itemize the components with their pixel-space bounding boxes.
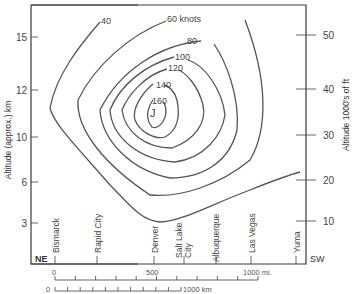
contour-label-80: 80 [187,36,197,46]
scale-miles-500: 500 [146,268,159,277]
left-tick-label-15: 15 [16,32,28,43]
right-tick-label-10: 10 [323,216,335,227]
left-axis: 15 12 10 6 3 Altitude (approx.) km [3,32,38,229]
contour-label-140: 140 [156,80,171,90]
left-axis-label: Altitude (approx.) km [3,101,13,179]
city-label-bismarck: Bismarck [51,217,61,253]
left-tick-label-6: 6 [21,177,27,188]
left-tick-label-12: 12 [16,85,28,96]
contour-label-120: 120 [168,63,183,73]
right-tick-label-50: 50 [323,30,335,41]
right-axis-label: Altitude 1000's of ft [341,78,351,151]
city-label-yuma: Yuma [292,231,302,253]
right-axis: 50 40 30 20 10 Altitude 1000's of ft [296,30,351,227]
city-label-albuquerque: Albuquerque [211,214,221,262]
jet-stream-cross-section-render: 15 12 10 6 3 Altitude (approx.) km 50 40… [0,0,359,294]
scale-km-1000: 1000 km [183,285,212,294]
right-tick-label-40: 40 [323,84,335,95]
scale-bars: 0 500 1000 mi. 0 1000 km [46,268,272,294]
scale-km-0: 0 [46,285,50,294]
scale-miles-0: 0 [52,268,56,277]
contours: 40 60 knots 80 100 120 140 160 J [50,14,300,222]
jet-core-symbol: J [150,107,156,119]
city-markers: Bismarck Rapid City Denver Salt Lake Cit… [35,213,325,264]
scale-miles-1000: 1000 mi. [243,268,272,277]
city-label-denver: Denver [150,225,160,253]
right-tick-label-30: 30 [323,130,335,141]
contour-label-40: 40 [101,16,111,26]
left-tick-label-10: 10 [16,132,28,143]
right-tick-label-20: 20 [323,175,335,186]
frame-left [31,5,138,264]
direction-ne: NE [35,254,48,264]
left-tick-label-3: 3 [21,218,27,229]
city-label-rapid-city: Rapid City [93,213,103,253]
contour-label-100: 100 [175,52,190,62]
contour-60 [78,20,263,195]
contour-140 [134,84,178,138]
city-label-las-vegas: Las Vegas [247,213,257,253]
scale-km-ticks [55,287,181,291]
contour-80 [100,41,237,178]
contour-label-60: 60 knots [167,14,202,24]
contour-label-160: 160 [152,96,167,106]
city-label-city: City [183,243,193,258]
direction-sw: SW [310,254,325,264]
